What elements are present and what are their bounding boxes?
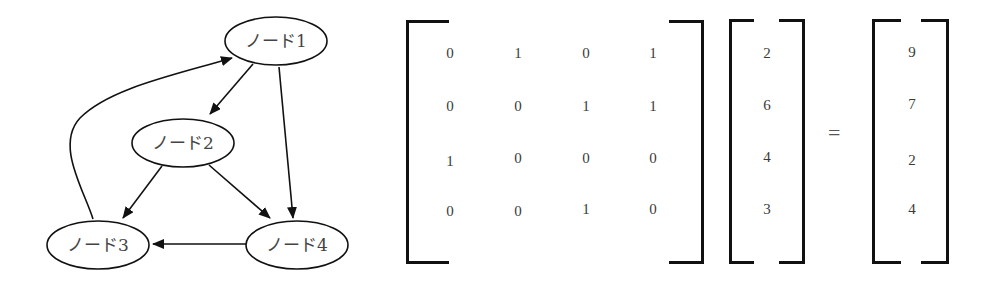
matrix-cell: 1 <box>503 43 533 63</box>
matrix-right-bracket <box>669 20 704 264</box>
matrix-cell: 0 <box>435 43 465 63</box>
result-cell: 2 <box>897 150 927 170</box>
matrix-cell: 0 <box>503 201 533 221</box>
matrix-cell: 1 <box>435 151 465 171</box>
link-graph: ノード1 ノード2 ノード3 ノード4 <box>0 0 380 289</box>
matrix-cell: 0 <box>435 96 465 116</box>
vector-cell: 6 <box>752 95 782 115</box>
vector-right-bracket <box>779 19 805 264</box>
svg-text:ノード3: ノード3 <box>67 235 129 255</box>
edge-node1-to-node4 <box>279 67 293 218</box>
equals-sign: = <box>828 120 840 146</box>
svg-text:ノード2: ノード2 <box>152 133 214 153</box>
matrix-cell: 0 <box>638 199 668 219</box>
result-cell: 7 <box>897 94 927 114</box>
matrix-cell: 1 <box>638 96 668 116</box>
matrix-cell: 1 <box>638 43 668 63</box>
graph-node-4: ノード4 <box>246 221 348 269</box>
svg-text:ノード4: ノード4 <box>266 235 328 255</box>
edge-node2-to-node3 <box>123 166 162 218</box>
result-cell: 4 <box>897 199 927 219</box>
matrix-cell: 0 <box>503 96 533 116</box>
matrix-cell: 0 <box>571 43 601 63</box>
graph-node-2: ノード2 <box>132 119 234 167</box>
vector-cell: 3 <box>752 199 782 219</box>
result-cell: 9 <box>897 42 927 62</box>
matrix-cell: 1 <box>571 199 601 219</box>
graph-node-1: ノード1 <box>225 17 327 65</box>
matrix-cell: 0 <box>571 148 601 168</box>
matrix-cell: 1 <box>571 96 601 116</box>
svg-text:ノード1: ノード1 <box>245 31 307 51</box>
vector-cell: 2 <box>752 43 782 63</box>
matrix-cell: 0 <box>435 201 465 221</box>
edge-node2-to-node4 <box>209 165 270 218</box>
matrix-cell: 0 <box>503 148 533 168</box>
graph-node-3: ノード3 <box>47 221 149 269</box>
vector-left-bracket <box>729 19 754 264</box>
edge-node1-to-node2 <box>210 64 253 114</box>
matrix-cell: 0 <box>638 148 668 168</box>
vector-cell: 4 <box>752 147 782 167</box>
